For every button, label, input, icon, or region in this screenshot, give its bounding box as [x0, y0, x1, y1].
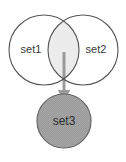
node-set1-label: set1: [21, 43, 42, 55]
node-set3-label: set3: [53, 114, 76, 128]
venn-diagram-canvas: set1 set2 set3: [0, 0, 126, 162]
venn-diagram-svg: set1 set2 set3: [0, 0, 126, 162]
node-set2-label: set2: [86, 43, 107, 55]
